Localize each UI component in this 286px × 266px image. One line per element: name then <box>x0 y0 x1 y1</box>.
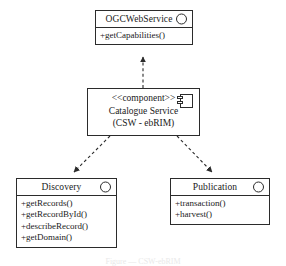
interface-lollipop-circle-icon <box>253 182 264 193</box>
publication-title: Publication <box>193 182 237 192</box>
discovery-operations: +getRecords() +getRecordById() +describe… <box>17 196 116 247</box>
class-box-discovery[interactable]: Discovery +getRecords() +getRecordById()… <box>16 178 117 248</box>
operation-item: +getCapabilities() <box>100 30 188 41</box>
class-box-publication[interactable]: Publication +transaction() +harvest() <box>170 178 270 225</box>
operation-item: +getRecordById() <box>21 209 112 220</box>
operation-item: +getDomain() <box>21 232 112 243</box>
operation-item: +transaction() <box>175 198 265 209</box>
publication-header: Publication <box>171 179 269 196</box>
connector-dependency-publication <box>177 136 212 172</box>
operation-item: +describeRecord() <box>21 221 112 232</box>
discovery-header: Discovery <box>17 179 116 196</box>
ogcwebservice-title: OGCWebService <box>105 14 172 24</box>
operation-item: +getRecords() <box>21 198 112 209</box>
discovery-title: Discovery <box>42 182 82 192</box>
class-box-ogcwebservice[interactable]: OGCWebService +getCapabilities() <box>95 10 193 45</box>
component-icon <box>180 94 193 108</box>
ogcwebservice-operations: +getCapabilities() <box>96 28 192 44</box>
operation-item: +harvest() <box>175 209 265 220</box>
ogcwebservice-header: OGCWebService <box>96 11 192 28</box>
figure-caption: Figure — CSW-ebRIM <box>0 257 286 266</box>
connector-dependency-discovery <box>74 136 110 172</box>
component-box-catalogue-service[interactable]: <<component>> Catalogue Service (CSW - e… <box>87 88 200 136</box>
publication-operations: +transaction() +harvest() <box>171 196 269 224</box>
interface-lollipop-circle-icon <box>100 182 111 193</box>
uml-component-diagram: OGCWebService +getCapabilities() <<compo… <box>0 0 286 266</box>
interface-lollipop-circle-icon <box>176 14 187 25</box>
component-subtitle: (CSW - ebRIM) <box>88 117 199 130</box>
